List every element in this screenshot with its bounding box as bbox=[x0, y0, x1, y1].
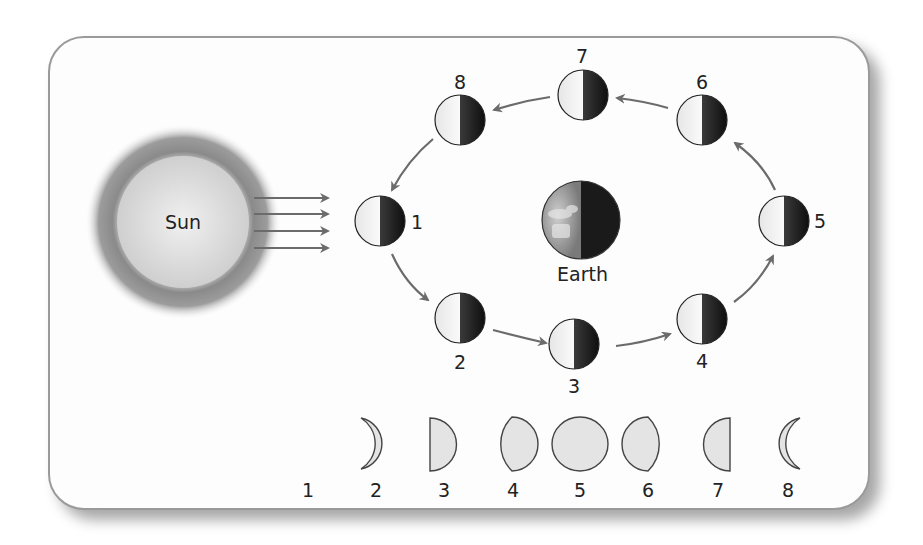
orbit-arrow-5-6 bbox=[735, 143, 775, 190]
sun: Sun bbox=[85, 124, 281, 320]
orbit-label-2: 2 bbox=[454, 351, 466, 373]
phase-first-quarter-icon bbox=[430, 418, 457, 471]
moon-phases-diagram: Sun Earth bbox=[0, 0, 923, 545]
orbit-arrow-6-7 bbox=[617, 98, 668, 108]
orbit-arrow-3-4 bbox=[616, 334, 670, 346]
phase-label-6: 6 bbox=[642, 479, 654, 501]
orbit-label-1: 1 bbox=[411, 211, 423, 233]
earth-lit-side bbox=[542, 181, 581, 259]
phase-label-7: 7 bbox=[712, 479, 724, 501]
orbit-label-8: 8 bbox=[454, 71, 466, 93]
orbit-moon-8 bbox=[435, 95, 485, 145]
phase-labels: 1 2 3 4 5 6 7 8 bbox=[302, 479, 794, 501]
phase-label-4: 4 bbox=[507, 479, 519, 501]
orbit-moon-6 bbox=[677, 95, 727, 145]
orbit-arrow-4-5 bbox=[734, 256, 773, 302]
phase-row bbox=[361, 417, 800, 471]
orbit-moon-7 bbox=[558, 70, 608, 120]
phase-label-2: 2 bbox=[370, 479, 382, 501]
orbit-moon-2 bbox=[435, 293, 485, 343]
orbit-arrow-2-3 bbox=[493, 330, 546, 343]
orbit-arrow-1-2 bbox=[392, 254, 428, 300]
orbit-arrow-8-1 bbox=[392, 139, 433, 190]
phase-full-moon-icon bbox=[552, 417, 608, 471]
phase-waning-crescent-icon bbox=[779, 418, 800, 469]
phase-waxing-gibbous-icon bbox=[501, 417, 538, 471]
orbit-moon-1 bbox=[355, 196, 405, 246]
orbit-moon-3 bbox=[549, 319, 599, 369]
earth: Earth bbox=[542, 181, 620, 285]
orbit-label-3: 3 bbox=[568, 375, 580, 397]
phase-third-quarter-icon bbox=[704, 418, 731, 471]
phase-label-5: 5 bbox=[574, 479, 586, 501]
phase-label-3: 3 bbox=[438, 479, 450, 501]
phase-label-1: 1 bbox=[302, 479, 314, 501]
orbit-label-5: 5 bbox=[814, 210, 826, 232]
earth-label: Earth bbox=[557, 263, 608, 285]
orbit-arrow-7-8 bbox=[494, 97, 550, 110]
orbit-label-7: 7 bbox=[576, 45, 588, 67]
orbit-moon-5 bbox=[759, 196, 809, 246]
phase-waning-gibbous-icon bbox=[622, 417, 659, 471]
orbit-label-6: 6 bbox=[696, 71, 708, 93]
sun-label: Sun bbox=[165, 211, 201, 233]
orbit-moon-4 bbox=[677, 294, 727, 344]
phase-waxing-crescent-icon bbox=[361, 418, 382, 469]
phase-label-8: 8 bbox=[782, 479, 794, 501]
orbit-label-4: 4 bbox=[696, 350, 708, 372]
